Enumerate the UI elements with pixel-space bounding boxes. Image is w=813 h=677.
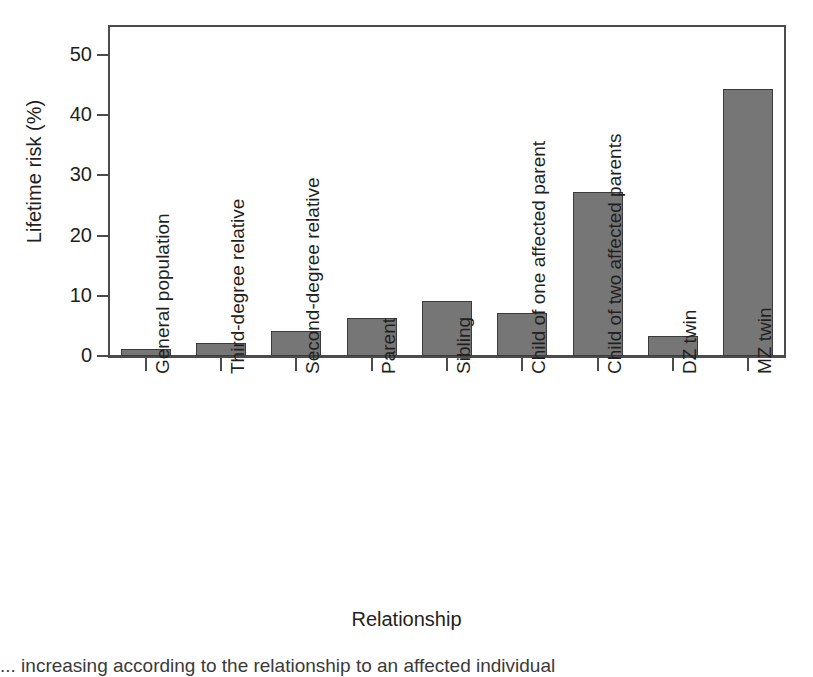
x-tick-mark: [145, 358, 147, 371]
y-tick-label: 30: [70, 163, 92, 185]
y-tick-mark: [97, 114, 108, 116]
x-tick-label: Child of two affected parents: [605, 134, 625, 374]
y-tick-mark: [97, 295, 108, 297]
x-tick-mark: [747, 358, 749, 371]
x-tick-label: General population: [153, 213, 173, 374]
x-tick-mark: [597, 358, 599, 371]
x-tick-label: Parent: [379, 318, 399, 374]
y-tick-label: 0: [81, 344, 92, 366]
y-tick-mark: [97, 174, 108, 176]
y-tick-label: 10: [70, 284, 92, 306]
x-tick-label: MZ twin: [755, 308, 775, 375]
x-tick-mark: [446, 358, 448, 371]
x-tick-mark: [672, 358, 674, 371]
y-tick-label: 50: [70, 43, 92, 65]
x-tick-mark: [371, 358, 373, 371]
x-tick-mark: [295, 358, 297, 371]
x-axis-labels: General populationThird-degree relativeS…: [108, 374, 786, 614]
y-tick-label: 40: [70, 103, 92, 125]
y-tick-mark: [97, 355, 108, 357]
x-axis-title: Relationship: [0, 608, 813, 631]
x-tick-label: DZ twin: [680, 310, 700, 374]
bars-group: [108, 25, 786, 356]
x-tick-label: Sibling: [454, 317, 474, 374]
y-tick-mark: [97, 54, 108, 56]
x-tick-mark: [220, 358, 222, 371]
x-tick-label: Second-degree relative: [303, 178, 323, 374]
x-tick-mark: [521, 358, 523, 371]
y-axis: Lifetime risk (%) 01020304050: [0, 0, 108, 380]
y-tick-mark: [97, 235, 108, 237]
x-tick-label: Child of one affected parent: [529, 141, 549, 374]
y-axis-title: Lifetime risk (%): [23, 42, 46, 302]
x-tick-label: Third-degree relative: [228, 199, 248, 374]
figure-caption: ... increasing according to the relation…: [0, 655, 813, 677]
y-tick-label: 20: [70, 224, 92, 246]
